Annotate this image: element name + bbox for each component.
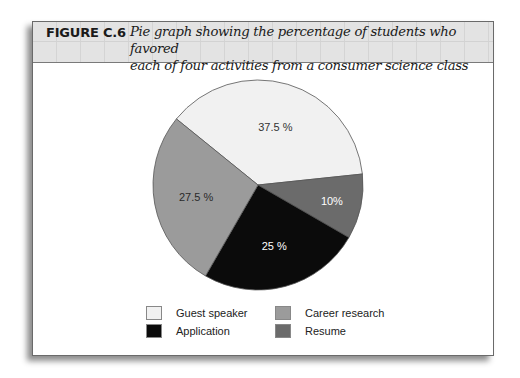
legend-swatch-resume bbox=[275, 324, 291, 338]
legend-swatch-guest-speaker bbox=[146, 306, 162, 320]
pie-chart: 37.5 %10%25 %27.5 % bbox=[0, 0, 520, 378]
legend-item-guest-speaker: Guest speaker bbox=[146, 306, 248, 320]
legend-swatch-career-research bbox=[275, 306, 291, 320]
slice-label-application: 25 % bbox=[262, 240, 287, 252]
legend-item-application: Application bbox=[146, 324, 230, 338]
legend-label: Guest speaker bbox=[176, 307, 248, 319]
legend-item-career-research: Career research bbox=[275, 306, 384, 320]
legend-swatch-application bbox=[146, 324, 162, 338]
slice-label-guest-speaker: 37.5 % bbox=[258, 121, 292, 133]
legend-item-resume: Resume bbox=[275, 324, 346, 338]
slice-label-career-research: 27.5 % bbox=[179, 191, 213, 203]
pie-slices bbox=[153, 80, 363, 290]
slice-label-resume: 10% bbox=[321, 195, 343, 207]
legend-label: Application bbox=[176, 325, 230, 337]
legend-label: Resume bbox=[305, 325, 346, 337]
legend-label: Career research bbox=[305, 307, 384, 319]
